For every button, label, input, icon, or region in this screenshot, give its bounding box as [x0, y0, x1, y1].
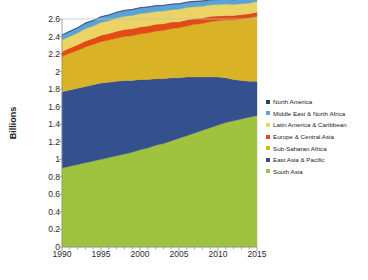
legend-swatch-icon [266, 123, 270, 127]
legend-item[interactable]: Europe & Central Asia [266, 131, 366, 143]
legend-swatch-icon [266, 169, 270, 173]
x-axis-tick-label: 2010 [209, 249, 228, 259]
x-axis-tick-label: 2005 [170, 249, 189, 259]
x-axis-tick-label: 1995 [92, 249, 111, 259]
legend-item[interactable]: South Asia [266, 166, 366, 178]
x-axis-tick-labels: 199019952000200520102015 [0, 246, 368, 266]
x-axis-tick-label: 2015 [248, 249, 267, 259]
legend-swatch-icon [266, 100, 270, 104]
x-axis-tick-label: 2000 [131, 249, 150, 259]
legend-item[interactable]: North America [266, 96, 366, 108]
legend-swatch-icon [266, 158, 270, 162]
legend-item[interactable]: Middle East & North Africa [266, 108, 366, 120]
stacked-area-chart: Billions 00.20.40.60.811.21.41.61.822.22… [0, 0, 368, 280]
legend-item-label: Sub-Saharan Africa [273, 145, 327, 152]
legend-item-label: Europe & Central Asia [273, 133, 334, 140]
legend-item-label: Latin America & Caribbean [273, 121, 347, 128]
legend-item-label: North America [273, 98, 312, 105]
legend-swatch-icon [266, 111, 270, 115]
legend-item[interactable]: Sub-Saharan Africa [266, 142, 366, 154]
legend-item-label: East Asia & Pacific [273, 156, 325, 163]
legend-swatch-icon [266, 135, 270, 139]
legend-swatch-icon [266, 146, 270, 150]
chart-legend: North AmericaMiddle East & North AfricaL… [266, 96, 366, 177]
legend-item-label: Middle East & North Africa [273, 110, 345, 117]
legend-item[interactable]: East Asia & Pacific [266, 154, 366, 166]
legend-item-label: South Asia [273, 168, 303, 175]
legend-item[interactable]: Latin America & Caribbean [266, 119, 366, 131]
x-axis-tick-label: 1990 [53, 249, 72, 259]
